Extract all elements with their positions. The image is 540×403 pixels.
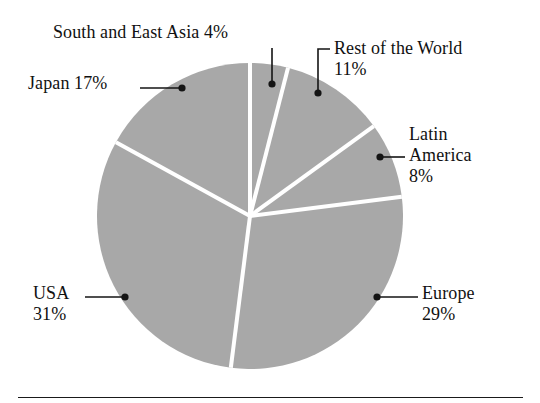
pie-slice (231, 197, 403, 369)
slice-label-rest-of-world: Rest of the World 11% (334, 38, 462, 80)
slice-label-usa-pct: 31% (33, 304, 69, 325)
slice-label-south-east-asia-text: South and East Asia 4% (53, 22, 228, 42)
pie-chart-figure: South and East Asia 4% Rest of the World… (0, 0, 540, 403)
slice-label-japan: Japan 17% (28, 73, 107, 94)
slice-label-usa-name: USA (33, 283, 69, 304)
figure-bottom-rule (18, 397, 523, 398)
slice-label-south-east-asia: South and East Asia 4% (53, 22, 228, 43)
slice-label-latin-america-line1: Latin (409, 124, 472, 145)
slice-label-latin-america: Latin America 8% (409, 124, 472, 187)
slice-label-japan-text: Japan 17% (28, 73, 107, 93)
leader-dot-usa (121, 293, 128, 300)
slice-label-rest-of-world-name: Rest of the World (334, 38, 462, 59)
leader-dot-rest-of-world (314, 89, 321, 96)
slice-label-latin-america-line2: America (409, 145, 472, 166)
slice-label-latin-america-pct: 8% (409, 166, 472, 187)
leader-dot-latin-america (376, 153, 383, 160)
slice-label-europe-name: Europe (422, 283, 475, 304)
leader-dot-japan (178, 84, 185, 91)
leader-dot-europe (373, 293, 380, 300)
slice-label-europe: Europe 29% (422, 283, 475, 325)
leader-dot-south-east-asia (268, 80, 275, 87)
slice-label-rest-of-world-pct: 11% (334, 59, 462, 80)
slice-label-europe-pct: 29% (422, 304, 475, 325)
slice-label-usa: USA 31% (33, 283, 69, 325)
